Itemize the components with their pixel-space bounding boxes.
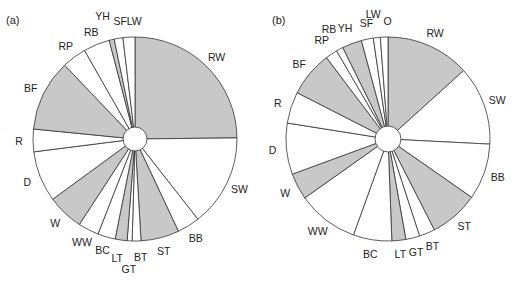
slice-label-lt: LT [395,248,407,260]
slice-label-ww: WW [72,236,92,248]
slice-label-rw: RW [426,27,443,39]
slice-label-lw: LW [127,15,142,27]
pie-chart-b: (b) RWSWBBSTBTGTLTBCWWWDRBFRPRBYHSFLWO [262,0,524,284]
pie-chart-a-svg: RWSWBBSTBTGTLTBCWWWDRBFRPRBYHSFLW [0,0,262,284]
pie-chart-a: (a) RWSWBBSTBTGTLTBCWWWDRBFRPRBYHSFLW [0,0,262,284]
slice-label-sw: SW [231,183,248,195]
slice-label-ww: WW [308,225,328,237]
slice-label-yh: YH [338,22,353,34]
slice-label-sw: SW [489,94,506,106]
slice-label-r: R [15,135,23,147]
slice-label-bt: BT [134,251,148,263]
slice-label-d: D [23,176,31,188]
slice-label-yh: YH [95,10,110,22]
slice-label-rp: RP [314,34,329,46]
slice-label-r: R [274,97,282,109]
slice-label-bb: BB [491,171,505,183]
slice-label-rw: RW [208,51,225,63]
slice-label-bb: BB [189,232,203,244]
slice-label-o: O [384,15,392,27]
slice-label-d: D [269,144,277,156]
slice-label-sf: SF [114,15,127,27]
slice-label-rb: RB [84,26,99,38]
slice-label-gt: GT [409,246,424,258]
slice-label-bf: BF [24,82,37,94]
slice-label-bc: BC [95,244,110,256]
slice-label-st: ST [157,245,171,257]
slice-label-bf: BF [292,58,305,70]
slice-label-rp: RP [58,40,73,52]
pie-chart-b-svg: RWSWBBSTBTGTLTBCWWWDRBFRPRBYHSFLWO [262,0,524,284]
slice-label-bc: BC [363,248,378,260]
slice-label-st: ST [457,220,471,232]
slice-label-bt: BT [426,240,440,252]
slice-label-gt: GT [122,263,137,275]
slice-label-lt: LT [111,252,123,264]
center-hole [123,127,147,151]
center-hole [375,126,401,152]
slice-label-lw: LW [366,8,381,20]
slice-label-w: W [280,187,290,199]
slice-label-w: W [50,217,60,229]
slice-label-rb: RB [322,23,337,35]
